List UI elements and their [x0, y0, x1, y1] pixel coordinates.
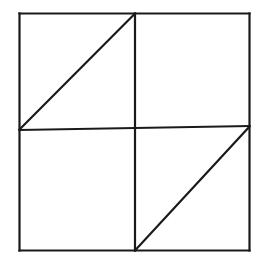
- geometric-figure: [0, 0, 272, 261]
